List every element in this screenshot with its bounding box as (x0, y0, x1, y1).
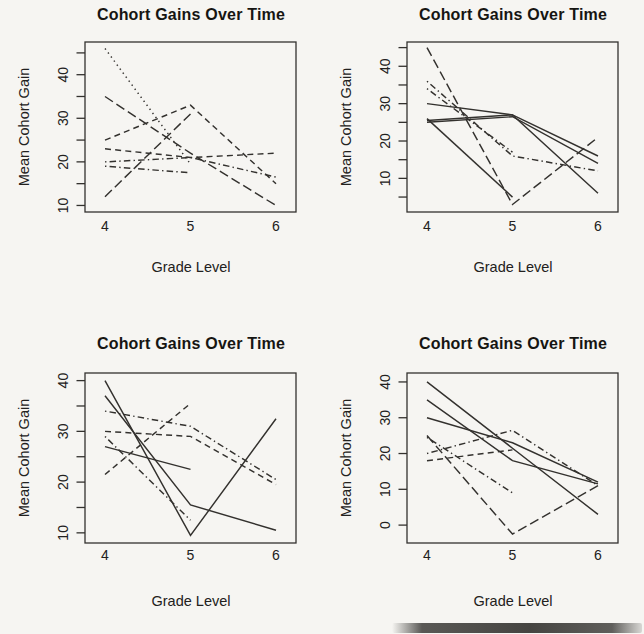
panel-top-left: 10203040456 Cohort Gains Over Time Mean … (0, 0, 322, 300)
plot-canvas-bottom-right: 010203040456 (322, 315, 644, 634)
series-line-cohort-7 (427, 450, 513, 461)
y-tick-label: 10 (377, 481, 393, 497)
series-line-cohort-6 (105, 431, 276, 484)
panel-title: Cohort Gains Over Time (382, 333, 644, 355)
y-tick-label: 40 (55, 373, 71, 389)
series-line-cohort-1 (105, 49, 191, 165)
y-tick-label: 20 (377, 446, 393, 462)
plot-box (407, 373, 618, 543)
x-tick-label: 6 (272, 218, 280, 234)
x-axis-label: Grade Level (382, 592, 644, 610)
y-tick-label: 10 (55, 525, 71, 541)
series-line-cohort-2 (427, 400, 598, 484)
y-tick-label: 30 (55, 423, 71, 439)
x-axis-label: Grade Level (382, 258, 644, 276)
x-tick-label: 5 (509, 218, 517, 234)
x-tick-label: 5 (187, 547, 195, 563)
x-tick-label: 5 (509, 547, 517, 563)
series-line-cohort-1 (105, 381, 276, 536)
panel-bottom-right: 010203040456 Cohort Gains Over Time Mean… (322, 315, 644, 634)
series-line-cohort-1 (427, 48, 598, 205)
series-line-cohort-7 (105, 114, 191, 197)
panel-top-right: 10203040456 Cohort Gains Over Time Mean … (322, 0, 644, 300)
series-line-cohort-2 (105, 396, 276, 531)
series-line-cohort-5 (427, 437, 513, 493)
plot-box (85, 42, 296, 212)
panel-title: Cohort Gains Over Time (60, 4, 322, 26)
y-tick-label: 30 (377, 96, 393, 112)
y-tick-label: 20 (55, 474, 71, 490)
series-line-cohort-4 (427, 104, 598, 156)
y-axis-label: Mean Cohort Gain (16, 68, 32, 186)
x-tick-label: 4 (101, 547, 109, 563)
y-tick-label: 40 (377, 374, 393, 390)
y-tick-label: 10 (377, 170, 393, 186)
y-tick-label: 30 (55, 110, 71, 126)
panel-bottom-left: 10203040456 Cohort Gains Over Time Mean … (0, 315, 322, 634)
series-line-cohort-7 (427, 119, 513, 198)
y-tick-label: 20 (55, 154, 71, 170)
series-line-cohort-7 (105, 436, 191, 520)
x-tick-label: 4 (101, 218, 109, 234)
series-line-cohort-4 (105, 403, 191, 474)
plot-canvas-bottom-left: 10203040456 (0, 315, 322, 634)
x-tick-label: 4 (423, 547, 431, 563)
y-tick-label: 40 (55, 67, 71, 83)
x-axis-label: Grade Level (60, 258, 322, 276)
series-line-cohort-6 (105, 166, 191, 173)
x-tick-label: 6 (594, 218, 602, 234)
plot-canvas-top-right: 10203040456 (322, 0, 644, 300)
plot-canvas-top-left: 10203040456 (0, 0, 322, 300)
panel-title: Cohort Gains Over Time (60, 333, 322, 355)
y-tick-label: 40 (377, 58, 393, 74)
series-line-cohort-1 (427, 382, 598, 515)
series-line-cohort-5 (427, 117, 598, 164)
y-tick-label: 0 (377, 521, 393, 529)
x-tick-label: 6 (272, 547, 280, 563)
y-axis-label: Mean Cohort Gain (338, 68, 354, 186)
series-line-cohort-6 (427, 115, 598, 193)
x-tick-label: 4 (423, 218, 431, 234)
x-tick-label: 5 (187, 218, 195, 234)
y-axis-label: Mean Cohort Gain (16, 399, 32, 517)
y-tick-label: 30 (377, 410, 393, 426)
x-tick-label: 6 (594, 547, 602, 563)
y-axis-label: Mean Cohort Gain (338, 399, 354, 517)
y-tick-label: 20 (377, 133, 393, 149)
panel-title: Cohort Gains Over Time (382, 4, 644, 26)
plot-box (85, 373, 296, 543)
y-tick-label: 10 (55, 197, 71, 213)
x-axis-label: Grade Level (60, 592, 322, 610)
series-line-cohort-3 (427, 89, 513, 153)
scan-smudge-artifact (392, 623, 642, 633)
